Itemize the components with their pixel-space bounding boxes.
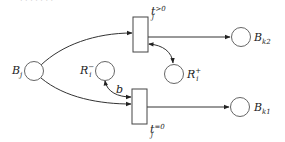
place-bj [25,62,44,81]
place-ri-minus [96,62,115,81]
transition-tj-gt0 [133,17,148,52]
label-bk1: Bk1 [253,101,271,116]
transition-tj-eq0 [132,89,147,124]
place-ri-plus [165,65,184,84]
label-tj-eq0: t=0j [149,123,166,139]
label-bk2: Bk2 [253,31,271,46]
label-bj: Bj [11,64,23,79]
arc-label-b: b [116,83,123,96]
label-ri-minus: R−i [79,63,94,79]
label-tj-gt0: t>0j [150,5,167,21]
place-bk2 [232,28,251,47]
label-ri-plus: R+i [186,67,201,83]
place-bk1 [231,98,250,117]
arc-bj-to-tgt0 [41,33,132,65]
cropped-caption-text: · · · · · · · [20,0,53,5]
arc-tgt0-rplus-bidirectional [149,44,173,63]
petri-net-diagram: · · · · · · · b Bj R−i R+i Bk2 Bk1 t>0j … [0,0,285,142]
